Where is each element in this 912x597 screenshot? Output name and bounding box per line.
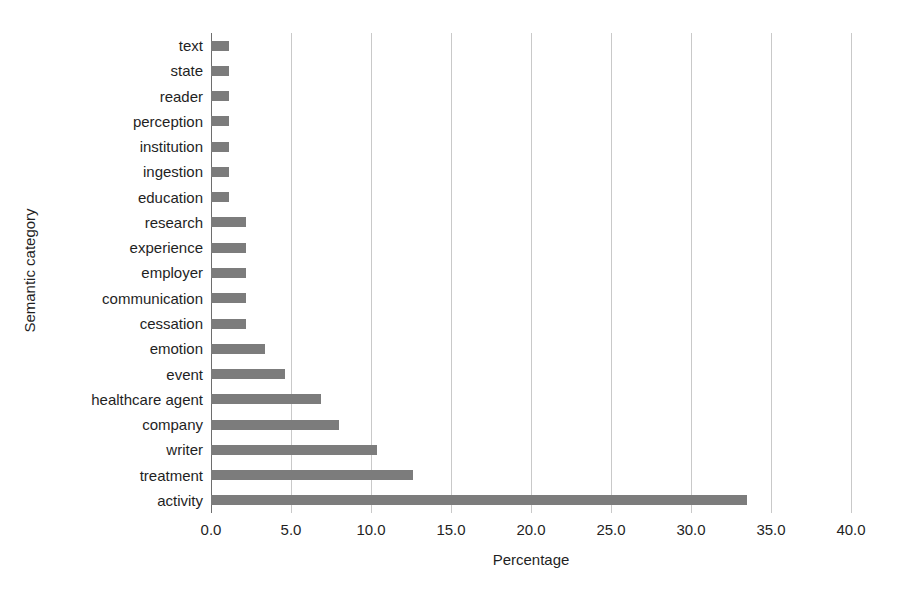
chart-row: experience [211, 235, 851, 260]
chart-row: employer [211, 260, 851, 285]
chart-row: reader [211, 84, 851, 109]
y-axis-tick-label: institution [140, 139, 203, 154]
x-axis-tick-label: 5.0 [281, 521, 302, 538]
bar-chart-figure: Semantic category 0.05.010.015.020.025.0… [0, 0, 912, 597]
chart-row: ingestion [211, 159, 851, 184]
chart-row: writer [211, 437, 851, 462]
x-axis-tick-label: 30.0 [676, 521, 705, 538]
y-axis-tick-label: activity [157, 493, 203, 508]
bar [211, 192, 229, 202]
y-axis-tick-label: event [166, 367, 203, 382]
x-axis-tick-label: 0.0 [201, 521, 222, 538]
chart-row: communication [211, 286, 851, 311]
chart-row: healthcare agent [211, 387, 851, 412]
chart-row: event [211, 361, 851, 386]
y-axis-tick-label: emotion [150, 341, 203, 356]
chart-row: treatment [211, 462, 851, 487]
y-axis-tick-label: research [145, 215, 203, 230]
bar [211, 369, 285, 379]
plot-area: 0.05.010.015.020.025.030.035.040.0textst… [211, 33, 851, 513]
y-axis-tick-label: treatment [140, 468, 203, 483]
y-axis-tick-label: reader [160, 89, 203, 104]
x-axis-tick-label: 40.0 [836, 521, 865, 538]
x-axis-tick-label: 35.0 [756, 521, 785, 538]
x-axis-tick-label: 25.0 [596, 521, 625, 538]
bar [211, 268, 246, 278]
chart-row: education [211, 185, 851, 210]
y-axis-tick-label: experience [130, 240, 203, 255]
chart-row: emotion [211, 336, 851, 361]
chart-row: text [211, 33, 851, 58]
chart-row: activity [211, 488, 851, 513]
chart-row: institution [211, 134, 851, 159]
chart-row: perception [211, 109, 851, 134]
bar [211, 167, 229, 177]
bar [211, 445, 377, 455]
bar [211, 420, 339, 430]
bar [211, 293, 246, 303]
y-axis-tick-label: perception [133, 114, 203, 129]
y-axis-tick-label: ingestion [143, 164, 203, 179]
y-axis-label-text: Semantic category [21, 208, 38, 332]
bar [211, 91, 229, 101]
bar [211, 319, 246, 329]
bar [211, 243, 246, 253]
chart-row: cessation [211, 311, 851, 336]
y-axis-tick-label: healthcare agent [91, 392, 203, 407]
bar [211, 217, 246, 227]
chart-row: research [211, 210, 851, 235]
y-axis-tick-label: company [142, 417, 203, 432]
y-axis-tick-label: education [138, 190, 203, 205]
x-axis-tick-label: 20.0 [516, 521, 545, 538]
y-axis-tick-label: communication [102, 291, 203, 306]
y-axis-tick-label: text [179, 38, 203, 53]
bar [211, 470, 413, 480]
y-axis-tick-label: employer [141, 265, 203, 280]
bar [211, 344, 265, 354]
x-axis-label: Percentage [211, 551, 851, 568]
gridline [851, 33, 852, 513]
bar [211, 116, 229, 126]
x-axis-tick-label: 10.0 [356, 521, 385, 538]
bar [211, 394, 321, 404]
bar [211, 142, 229, 152]
chart-row: company [211, 412, 851, 437]
y-axis-tick-label: cessation [140, 316, 203, 331]
x-axis-tick-label: 15.0 [436, 521, 465, 538]
y-axis-tick-label: writer [166, 442, 203, 457]
bar [211, 41, 229, 51]
bar [211, 495, 747, 505]
y-axis-label: Semantic category [14, 0, 44, 540]
y-axis-tick-label: state [170, 63, 203, 78]
bar [211, 66, 229, 76]
chart-row: state [211, 58, 851, 83]
